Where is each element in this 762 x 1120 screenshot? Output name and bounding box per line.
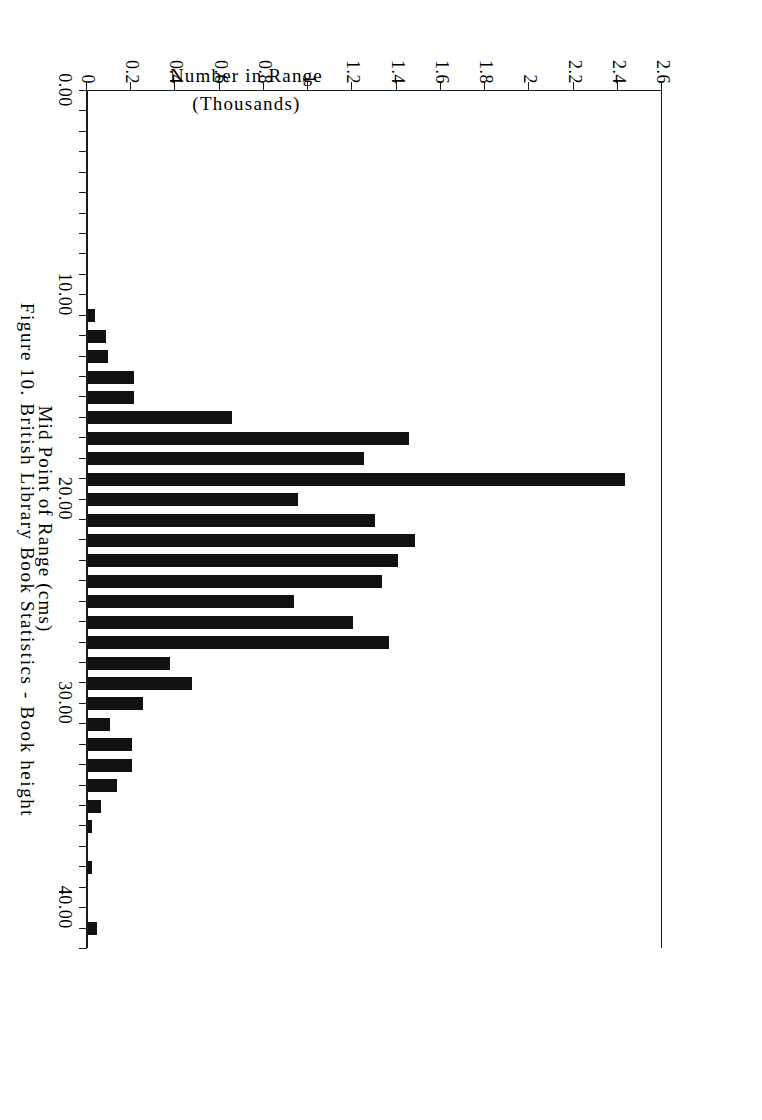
category-tick [79,723,87,724]
bar [88,820,92,833]
chart-plot-area [87,90,662,948]
category-tick [79,621,87,622]
bar [88,738,132,751]
bar [88,718,110,731]
bar [88,922,97,935]
category-tick-label: 30.00 [54,681,75,724]
category-tick [79,315,87,316]
value-axis: Number in Range (Thousands) 00.20.40.60.… [86,90,662,91]
value-tick-label: 1.4 [386,60,407,84]
category-tick [79,825,87,826]
value-tick-label: 1.6 [430,60,451,84]
bar [88,554,398,567]
category-tick [79,601,87,602]
bar [88,309,95,322]
category-tick [79,662,87,663]
bar [88,330,106,343]
bar [88,493,298,506]
bar [88,371,134,384]
category-tick [79,253,87,254]
bar [88,452,364,465]
bar [88,677,192,690]
category-tick [79,866,87,867]
category-tick-label: 0.00 [54,73,75,107]
category-tick [79,907,87,908]
category-tick-label: 10.00 [54,273,75,316]
category-tick [79,928,87,929]
category-tick [79,172,87,173]
category-axis: 0.0010.0020.0030.0040.00 [86,90,87,948]
bar [88,432,409,445]
bar [88,411,232,424]
bar [88,350,108,363]
value-tick-label: 2.2 [563,60,584,84]
category-tick [79,151,87,152]
bar [88,575,382,588]
category-tick [79,376,87,377]
bar [88,473,625,486]
value-tick-label: 2.4 [607,60,628,84]
category-tick [79,703,87,704]
category-tick [79,642,87,643]
figure-caption: Figure 10. British Library Book Statisti… [16,0,38,1120]
category-tick [79,539,87,540]
bar [88,514,376,527]
category-tick [79,335,87,336]
category-tick [79,192,87,193]
category-tick [79,294,87,295]
value-tick-label: 1 [298,75,319,85]
category-tick [79,478,87,479]
category-tick [79,274,87,275]
category-tick [79,744,87,745]
value-tick-label: 0.6 [209,60,230,84]
bar [88,391,134,404]
bar [88,636,389,649]
category-tick [79,887,87,888]
bar [88,759,132,772]
category-tick [79,846,87,847]
category-tick [79,233,87,234]
category-tick [79,499,87,500]
bar [88,697,143,710]
bar [88,800,101,813]
category-tick [79,580,87,581]
value-tick-label: 2.6 [652,60,673,84]
category-tick [79,213,87,214]
category-tick [79,110,87,111]
category-tick [79,785,87,786]
category-tick [79,519,87,520]
value-tick-label: 0.2 [121,60,142,84]
category-tick [79,458,87,459]
bar [88,861,92,874]
category-tick [79,948,87,949]
category-tick [79,560,87,561]
bars-container [88,91,661,948]
value-tick-label: 1.2 [342,60,363,84]
category-tick-label: 20.00 [54,477,75,520]
bar [88,534,415,547]
figure-stage: Number in Range (Thousands) 00.20.40.60.… [0,0,762,1120]
value-tick-label: 0.4 [165,60,186,84]
category-tick [79,417,87,418]
bar [88,595,294,608]
category-tick [79,764,87,765]
category-tick [79,396,87,397]
value-tick-label: 1.8 [475,60,496,84]
category-tick [79,805,87,806]
category-tick [79,131,87,132]
category-tick [79,90,87,91]
value-axis-title-line2: (Thousands) [96,90,396,118]
category-tick [79,437,87,438]
bar [88,657,170,670]
bar [88,616,353,629]
value-tick-label: 0 [77,75,98,85]
category-tick [79,682,87,683]
bar [88,779,117,792]
category-tick-label: 40.00 [54,886,75,929]
value-tick-label: 2 [519,75,540,85]
value-tick-label: 0.8 [253,60,274,84]
category-tick [79,356,87,357]
